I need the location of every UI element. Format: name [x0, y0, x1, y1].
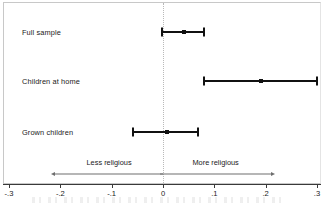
- point-estimate-full-sample: [182, 30, 186, 34]
- x-axis-tick-label: -.3: [5, 189, 14, 198]
- ci-cap-high-grown-children: [197, 128, 199, 137]
- annotation-label-more-religious: More religious: [192, 158, 238, 167]
- arrow-head-right-icon: [271, 172, 275, 176]
- annotation-arrow-more-religious: [160, 174, 270, 175]
- ci-cap-high-full-sample: [203, 28, 205, 37]
- point-estimate-grown-children: [165, 130, 169, 134]
- x-axis-tick: [112, 184, 113, 188]
- x-axis-tick: [163, 184, 164, 188]
- ci-cap-low-grown-children: [132, 128, 134, 137]
- ci-cap-low-full-sample: [161, 28, 163, 37]
- x-axis-tick: [317, 184, 318, 188]
- plot-area: Full sample Children at home Grown child…: [0, 0, 323, 204]
- x-axis-tick: [266, 184, 267, 188]
- ci-cap-high-children-at-home: [316, 77, 318, 86]
- annotation-arrow-less-religious: [55, 174, 163, 175]
- x-axis-tick: [60, 184, 61, 188]
- row-label-grown-children: Grown children: [22, 128, 73, 137]
- arrow-head-left-icon: [51, 172, 55, 176]
- x-axis-tick: [9, 184, 10, 188]
- x-axis-tick: [214, 184, 215, 188]
- x-axis-tick-label: .3: [314, 189, 320, 198]
- annotation-label-less-religious: Less religious: [86, 158, 131, 167]
- row-label-full-sample: Full sample: [22, 28, 61, 37]
- row-label-children-at-home: Children at home: [22, 77, 80, 86]
- ci-cap-low-children-at-home: [203, 77, 205, 86]
- x-axis-line: [3, 184, 321, 185]
- forest-plot-figure: Full sample Children at home Grown child…: [0, 0, 323, 204]
- cropped-caption-text: [32, 197, 282, 203]
- point-estimate-children-at-home: [259, 79, 263, 83]
